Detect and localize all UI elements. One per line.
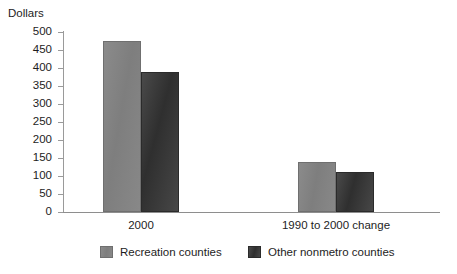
- bar-other-nonmetro-counties: [336, 172, 374, 212]
- y-axis-tick-label: 50: [39, 187, 52, 200]
- y-axis-tick-label: 300: [33, 97, 52, 110]
- x-axis-category-label: 1990 to 2000 change: [256, 218, 416, 232]
- legend-label: Recreation counties: [120, 245, 222, 259]
- bar-other-nonmetro-counties: [141, 72, 179, 212]
- y-axis-tick-label: 100: [33, 169, 52, 182]
- plot-area: [63, 32, 440, 212]
- y-axis-tick-label: 400: [33, 61, 52, 74]
- bar-recreation-counties: [298, 162, 336, 212]
- bar-recreation-counties: [103, 41, 141, 212]
- y-axis-tick-mark: [58, 212, 63, 213]
- legend-label: Other nonmetro counties: [268, 245, 395, 259]
- legend-swatch-icon: [248, 246, 261, 258]
- y-axis-tick-label: 0: [46, 205, 52, 218]
- bar-chart: Dollars 050100150200250300350400450500 2…: [0, 0, 457, 274]
- y-axis-title: Dollars: [8, 6, 44, 20]
- y-axis-tick-label: 450: [33, 43, 52, 56]
- legend-swatch-icon: [100, 246, 113, 258]
- y-axis-tick-label: 150: [33, 151, 52, 164]
- x-axis-category-label: 2000: [61, 218, 221, 232]
- y-axis-tick-label: 500: [33, 25, 52, 38]
- x-axis-line: [63, 212, 440, 213]
- y-axis-tick-label: 350: [33, 79, 52, 92]
- y-axis-tick-label: 250: [33, 115, 52, 128]
- y-axis-tick-label: 200: [33, 133, 52, 146]
- legend-item: Recreation counties: [100, 245, 222, 259]
- legend-item: Other nonmetro counties: [248, 245, 395, 259]
